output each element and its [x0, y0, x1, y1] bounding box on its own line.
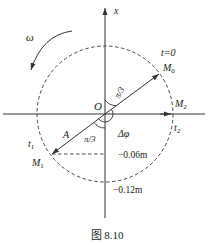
tick-label-neg006: −0.06m	[118, 150, 148, 160]
t2-label: t2	[174, 122, 181, 135]
tick-label-neg012: −0.12m	[113, 185, 143, 195]
omega-label: ω	[26, 31, 34, 43]
origin-label: O	[94, 100, 102, 112]
angle-label-top: π/3	[112, 85, 127, 100]
delta-phi-label: Δφ	[117, 128, 130, 139]
m2-label: M2	[174, 98, 187, 111]
x-axis-label: x	[113, 5, 119, 16]
t0-label: t=0	[161, 47, 176, 58]
figure-caption: 图 8.10	[0, 226, 214, 242]
omega-rotation-arrow	[31, 31, 72, 70]
m0-label: M0	[162, 62, 175, 75]
phasor-m1	[52, 114, 105, 154]
angle-label-bottom: π/3	[84, 134, 96, 144]
angle-arc-bottom	[94, 122, 105, 128]
t1-label: t1	[28, 138, 35, 151]
m1-label: M1	[31, 157, 44, 170]
amplitude-label: A	[62, 129, 70, 140]
angle-arc-top	[105, 100, 116, 106]
phasor-diagram: x ω O t=0 M0 M2 t2 t1 M1 A π/3 π/3 Δφ −0…	[0, 0, 214, 245]
